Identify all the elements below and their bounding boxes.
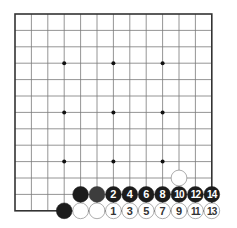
- white-stone: 9: [171, 203, 187, 219]
- star-point: [111, 160, 115, 164]
- move-number-label: 6: [143, 188, 149, 200]
- move-number-label: 10: [174, 189, 185, 200]
- white-stone: 13: [204, 203, 220, 219]
- move-number-label: 7: [160, 205, 166, 217]
- go-board-diagram: 1357911132468101214: [0, 0, 237, 228]
- move-number-label: 13: [207, 206, 218, 217]
- white-stone: [89, 203, 105, 219]
- black-stone: 10: [171, 187, 187, 203]
- star-point: [62, 110, 66, 114]
- black-stone: 4: [122, 187, 138, 203]
- star-point: [111, 110, 115, 114]
- white-stone: 1: [106, 203, 122, 219]
- white-stone: [171, 170, 187, 186]
- stone-circle: [89, 203, 105, 219]
- black-stone: [56, 203, 72, 219]
- black-stone: 12: [188, 187, 204, 203]
- stone-circle: [171, 170, 187, 186]
- stone-circle: [73, 187, 89, 203]
- star-point: [62, 61, 66, 65]
- star-point: [62, 160, 66, 164]
- white-stone: 5: [138, 203, 154, 219]
- black-stone: 6: [138, 187, 154, 203]
- black-stone: 2: [106, 187, 122, 203]
- move-number-label: 14: [207, 189, 218, 200]
- star-point: [111, 61, 115, 65]
- white-stone: 7: [155, 203, 171, 219]
- move-number-label: 3: [127, 205, 133, 217]
- stone-circle: [56, 203, 72, 219]
- move-number-label: 2: [110, 188, 116, 200]
- move-number-label: 1: [110, 205, 116, 217]
- move-number-label: 4: [127, 188, 134, 200]
- move-number-label: 12: [191, 189, 202, 200]
- move-number-label: 9: [176, 205, 182, 217]
- stone-circle: [89, 187, 105, 203]
- black-stone: 14: [204, 187, 220, 203]
- stone-circle: [73, 203, 89, 219]
- white-stone: 11: [188, 203, 204, 219]
- grey-stone: [89, 187, 105, 203]
- move-number-label: 11: [191, 206, 201, 217]
- white-stone: [73, 203, 89, 219]
- black-stone: 8: [155, 187, 171, 203]
- black-stone: [73, 187, 89, 203]
- star-point: [161, 61, 165, 65]
- white-stone: 3: [122, 203, 138, 219]
- star-point: [161, 160, 165, 164]
- move-number-label: 8: [160, 188, 166, 200]
- move-number-label: 5: [143, 205, 149, 217]
- star-point: [161, 110, 165, 114]
